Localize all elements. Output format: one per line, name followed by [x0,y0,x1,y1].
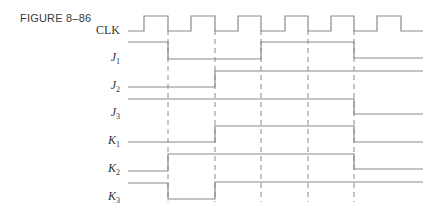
waveform-j2 [128,71,423,87]
waveform-j3 [128,99,423,114]
waveform-j1 [128,42,423,59]
waveform-k3 [128,182,423,199]
waveform-k1 [128,126,423,142]
waveform-clk [128,16,423,31]
timing-diagram [0,0,442,208]
waveform-k2 [128,154,423,171]
